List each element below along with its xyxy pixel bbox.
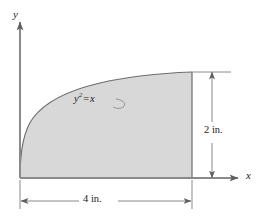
equation-right-side: x	[90, 93, 95, 104]
figure-drawing	[0, 0, 268, 219]
shaded-region	[20, 72, 192, 178]
x-axis-label: x	[246, 170, 251, 181]
dimension-label-height: 2 in.	[204, 125, 223, 136]
equation-operator: =	[82, 93, 90, 104]
dimension-label-width: 4 in.	[80, 194, 105, 205]
curve-equation-label: y2=x	[74, 92, 95, 104]
y-axis-label: y	[13, 9, 18, 20]
figure-container: y x y2=x 2 in. 4 in.	[0, 0, 268, 219]
